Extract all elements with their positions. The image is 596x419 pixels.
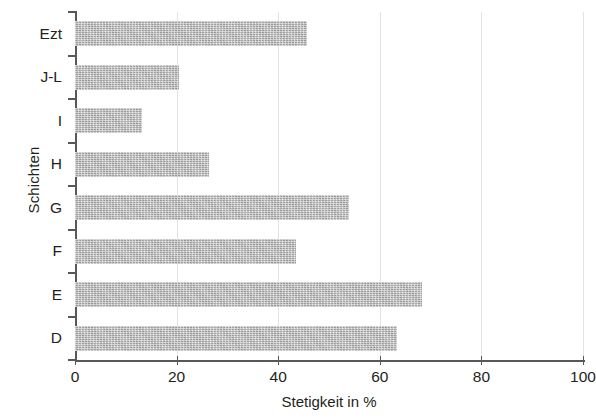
gridline-100 [583,12,584,360]
y-axis-tick-label-f: F [0,243,62,259]
gridline-60 [380,12,381,360]
y-axis-tick-7 [68,316,77,318]
y-axis-tick-label-g: G [0,200,62,216]
x-axis-tick-100 [583,356,584,365]
x-axis-tick-label-80: 80 [451,368,511,386]
x-axis-tick-label-0: 0 [45,368,105,386]
y-axis-tick-label-d: D [0,330,62,346]
x-axis-tick-0 [75,356,76,365]
y-axis-tick-3 [68,142,77,144]
gridline-80 [481,12,482,360]
x-axis-tick-label-60: 60 [350,368,410,386]
gridline-40 [278,12,279,360]
x-axis-tick-80 [481,356,482,365]
y-axis-tick-5 [68,229,77,231]
bar-chart-figure: Schichten EztJ-LIHGFED 020406080100 Stet… [0,0,596,419]
y-axis-tick-6 [68,272,77,274]
x-axis-tick-label-40: 40 [248,368,308,386]
y-axis-tick-label-j-l: J-L [0,69,62,85]
bar-e [75,282,422,307]
x-axis-tick-60 [380,356,381,365]
y-axis-tick-label-e: E [0,287,62,303]
x-axis-line [75,360,585,362]
y-axis-tick-2 [68,98,77,100]
bar-j-l [75,65,179,90]
y-axis-tick-4 [68,185,77,187]
y-axis-tick-1 [68,55,77,57]
bar-f [75,239,296,264]
bar-i [75,108,142,133]
x-axis-tick-40 [278,356,279,365]
bar-h [75,152,209,177]
y-axis-tick-label-i: I [0,113,62,129]
x-axis-tick-label-100: 100 [553,368,596,386]
y-axis-tick-label-ezt: Ezt [0,26,62,42]
y-axis-title: Schichten [22,0,44,360]
y-axis-tick-0 [68,11,77,13]
y-axis-tick-label-h: H [0,156,62,172]
bar-ezt [75,21,307,46]
bar-d [75,326,397,351]
x-axis-tick-label-20: 20 [147,368,207,386]
x-axis-tick-20 [177,356,178,365]
bar-g [75,195,349,220]
x-axis-title: Stetigkeit in % [75,393,583,410]
